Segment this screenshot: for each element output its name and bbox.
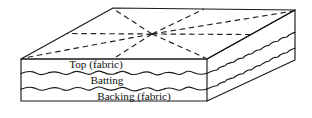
label-backing-layer: Backing (fabric): [97, 90, 171, 103]
quilt-diagram-container: Top (fabric) Batting Backing (fabric): [0, 0, 312, 118]
label-top-layer: Top (fabric): [69, 58, 123, 71]
label-batting-layer: Batting: [91, 74, 124, 86]
quilt-cross-section-diagram: Top (fabric) Batting Backing (fabric): [0, 0, 312, 118]
